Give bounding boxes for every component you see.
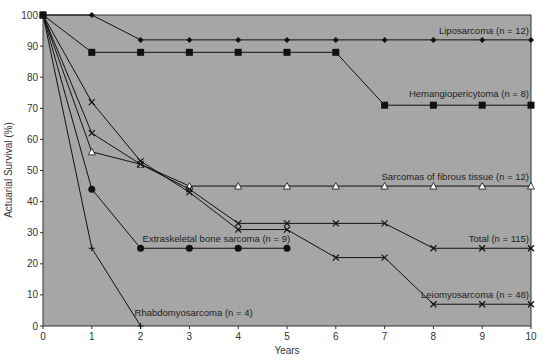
y-tick-label: 80 [27,72,39,83]
data-point-square-icon [137,49,144,56]
data-point-square-icon [332,49,339,56]
data-point-circle-icon [284,245,291,252]
data-point-circle-icon [235,245,242,252]
series-label: Extraskeletal bone sarcoma (n = 9) [143,233,291,244]
data-point-square-icon [88,49,95,56]
data-point-square-icon [284,49,291,56]
y-tick-label: 10 [27,289,39,300]
y-tick-label: 30 [27,227,39,238]
series-label: Hemangiopericytoma (n = 8) [409,88,529,99]
survival-chart: 0123456789100102030405060708090100 Lipos… [0,0,546,364]
x-tick-label: 3 [187,331,193,342]
series-label: Total (n = 115) [469,233,529,244]
series-label: Sarcomas of fibrous tissue (n = 12) [381,171,529,182]
data-point-square-icon [528,102,535,109]
data-point-circle-icon [137,245,144,252]
data-point-circle-icon [186,245,193,252]
y-tick-label: 70 [27,103,39,114]
y-tick-label: 20 [27,258,39,269]
y-axis-label: Actuarial Survival (%) [3,122,14,218]
y-tick-label: 100 [21,10,38,21]
x-tick-label: 6 [333,331,339,342]
x-tick-label: 10 [525,331,537,342]
x-tick-label: 9 [479,331,485,342]
x-tick-label: 5 [284,331,290,342]
data-point-square-icon [381,102,388,109]
y-tick-label: 50 [27,165,39,176]
y-tick-label: 40 [27,196,39,207]
x-tick-label: 2 [138,331,144,342]
x-tick-label: 1 [89,331,95,342]
x-tick-label: 4 [235,331,241,342]
y-tick-label: 0 [32,321,38,332]
y-tick-label: 90 [27,41,39,52]
x-axis-label: Years [274,345,299,356]
data-point-square-icon [479,102,486,109]
data-point-square-icon [430,102,437,109]
y-tick-label: 60 [27,134,39,145]
series-label: Leiomyosarcoma (n = 48) [421,289,529,300]
series-label: Rhabdomyosarcoma (n = 4) [135,307,253,318]
x-tick-label: 7 [382,331,388,342]
x-tick-label: 8 [431,331,437,342]
data-point-square-icon [235,49,242,56]
data-point-circle-icon [88,186,95,193]
series-label: Liposarcoma (n = 12) [439,25,529,36]
data-point-square-icon [186,49,193,56]
x-tick-label: 0 [40,331,46,342]
